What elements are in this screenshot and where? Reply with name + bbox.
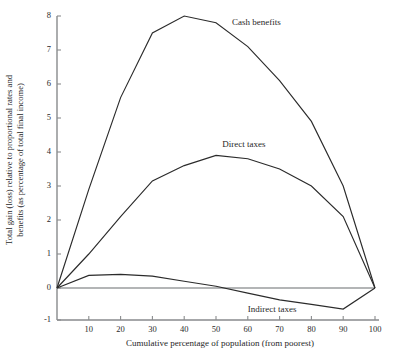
y-tick-label: 3 — [47, 180, 51, 190]
x-axis-title: Cumulative percentage of population (fro… — [126, 338, 314, 348]
x-tick-label: 30 — [148, 324, 157, 334]
series-label-cash-benefits: Cash benefits — [232, 17, 281, 27]
y-axis-title-line2: benefits (as percentage of total final i… — [15, 75, 26, 245]
x-tick-label: 80 — [307, 324, 316, 334]
x-tick-label: 40 — [180, 324, 189, 334]
x-tick-label: 50 — [212, 324, 221, 334]
y-axis-title-line1: Total gain (loss) relative to proportion… — [4, 75, 15, 245]
x-tick-label: 90 — [339, 324, 348, 334]
y-tick-label: 1 — [47, 248, 51, 258]
series-line-direct-taxes — [57, 155, 375, 288]
y-tick-label: -1 — [44, 314, 51, 324]
y-tick-label: 4 — [47, 146, 52, 156]
series-line-cash-benefits — [57, 16, 375, 288]
x-tick-label: 100 — [369, 324, 382, 334]
x-tick-label: 60 — [244, 324, 253, 334]
y-tick-label: 5 — [47, 112, 51, 122]
y-tick-label: 2 — [47, 214, 51, 224]
y-tick-label: 8 — [47, 10, 51, 20]
y-tick-label: 7 — [47, 44, 51, 54]
line-chart-svg: -1012345678102030405060708090100Cash ben… — [0, 0, 396, 361]
series-line-indirect-taxes — [57, 274, 375, 309]
x-tick-label: 20 — [116, 324, 125, 334]
series-label-indirect-taxes: Indirect taxes — [248, 304, 297, 314]
chart-container: -1012345678102030405060708090100Cash ben… — [0, 0, 396, 361]
x-tick-label: 10 — [85, 324, 94, 334]
y-tick-label: 0 — [47, 282, 51, 292]
x-tick-label: 70 — [275, 324, 284, 334]
y-tick-label: 6 — [47, 78, 51, 88]
series-label-direct-taxes: Direct taxes — [222, 139, 266, 149]
y-axis-title: Total gain (loss) relative to proportion… — [2, 0, 28, 320]
